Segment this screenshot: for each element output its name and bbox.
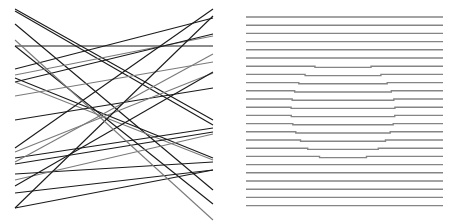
horizontal-line [246, 91, 443, 92]
horizontal-line [246, 107, 443, 108]
crossing-line [15, 162, 213, 174]
horizontal-line [246, 115, 443, 116]
crossing-line [15, 34, 213, 82]
horizontal-line [246, 156, 443, 157]
crossing-line [15, 9, 213, 148]
crossing-line [15, 36, 213, 75]
horizontal-line [246, 66, 443, 67]
random-lines-panel [15, 9, 213, 220]
figure-canvas [0, 0, 459, 223]
horizontal-line [246, 140, 443, 141]
crossing-line [15, 88, 213, 120]
crossing-line [15, 24, 213, 190]
horizontal-line [246, 99, 443, 100]
crossing-line [15, 128, 213, 158]
horizontal-line [246, 83, 443, 84]
crossing-line [15, 72, 213, 186]
horizontal-line [246, 74, 443, 75]
horizontal-line [246, 132, 443, 133]
horizontal-line [246, 124, 443, 125]
crossing-line [15, 16, 213, 208]
horizontal-lines-panel [246, 17, 443, 206]
horizontal-line [246, 148, 443, 149]
